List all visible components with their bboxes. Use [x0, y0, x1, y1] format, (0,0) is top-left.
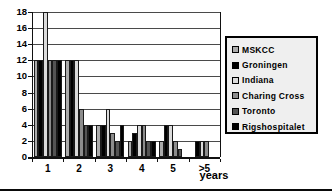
x-category-label: 4 — [127, 163, 157, 174]
legend: MSKCCGroningenIndianaCharing CrossToront… — [225, 36, 318, 134]
legend-swatch-icon — [232, 92, 239, 99]
legend-swatch-icon — [232, 123, 239, 130]
legend-item-rigshospitalet: Rigshospitalet — [232, 119, 316, 134]
legend-swatch-icon — [232, 108, 239, 115]
x-tick-mark — [157, 159, 158, 162]
y-tick-label: 8 — [1, 88, 27, 98]
bar-rigshospitalet-year-2 — [88, 125, 93, 157]
x-category-label: 3 — [95, 163, 125, 174]
gridline-14 — [32, 44, 220, 45]
bar-charing-cross-year->5 — [204, 141, 209, 157]
legend-item-charing-cross: Charing Cross — [232, 88, 316, 103]
bar-rigshospitalet-year-1 — [57, 60, 62, 157]
y-tick-label: 2 — [1, 136, 27, 146]
gridline-18 — [32, 12, 220, 13]
legend-label: Rigshospitalet — [242, 122, 305, 132]
legend-label: Groningen — [242, 60, 288, 70]
y-tick-label: 6 — [1, 104, 27, 114]
chart-bottom-border — [0, 189, 332, 191]
bar-rigshospitalet-year-4 — [151, 141, 156, 157]
x-tick-mark — [95, 159, 96, 162]
legend-swatch-icon — [232, 77, 239, 84]
y-tick-label: 12 — [1, 55, 27, 65]
x-tick-mark — [63, 159, 64, 162]
y-tick-label: 10 — [1, 71, 27, 81]
y-tick-label: 0 — [1, 152, 27, 162]
x-tick-mark — [32, 159, 33, 162]
x-category-label: 2 — [64, 163, 94, 174]
legend-label: Indiana — [242, 75, 274, 85]
x-tick-mark — [189, 159, 190, 162]
legend-item-toronto: Toronto — [232, 104, 316, 119]
legend-item-indiana: Indiana — [232, 73, 316, 88]
x-category-label: 5 — [158, 163, 188, 174]
x-tick-mark — [126, 159, 127, 162]
y-tick-label: 16 — [1, 23, 27, 33]
legend-label: MSKCC — [242, 45, 275, 55]
x-axis-line — [28, 157, 220, 159]
y-tick-label: 18 — [1, 7, 27, 17]
legend-item-mskcc: MSKCC — [232, 42, 316, 57]
legend-item-groningen: Groningen — [232, 57, 316, 72]
y-tick-label: 4 — [1, 120, 27, 130]
legend-label: Charing Cross — [242, 91, 304, 101]
gridline-16 — [32, 28, 220, 29]
legend-swatch-icon — [232, 46, 239, 53]
bar-chart: 02468101214161812345>5 MSKCCGroningenInd… — [0, 0, 332, 192]
y-axis-line — [32, 12, 33, 157]
x-category-label: 1 — [33, 163, 63, 174]
legend-label: Toronto — [242, 106, 276, 116]
plot-right-border — [220, 12, 221, 157]
bar-rigshospitalet-year-3 — [120, 125, 125, 157]
bar-toronto-year-5 — [178, 149, 183, 157]
x-tick-mark — [220, 159, 221, 162]
x-axis-title: years — [194, 169, 234, 181]
y-tick-label: 14 — [1, 39, 27, 49]
legend-swatch-icon — [232, 62, 239, 69]
